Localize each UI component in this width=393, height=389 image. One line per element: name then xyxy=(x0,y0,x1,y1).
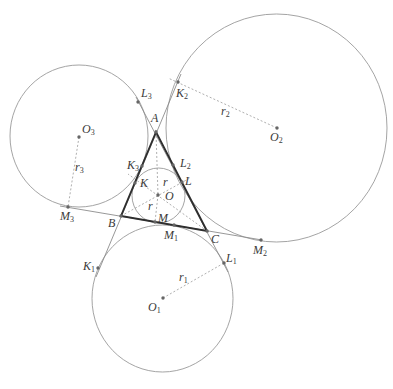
label-M: M xyxy=(157,211,169,225)
label-K: K xyxy=(139,176,149,190)
point-K2 xyxy=(176,80,179,83)
label-B: B xyxy=(108,216,116,230)
point-K xyxy=(133,181,136,184)
point-M1 xyxy=(172,223,175,226)
point-L3 xyxy=(136,100,139,103)
label-O: O xyxy=(165,189,174,203)
point-B xyxy=(119,214,122,217)
point-A xyxy=(154,130,157,133)
point-K3 xyxy=(140,164,143,167)
point-M xyxy=(153,220,156,223)
point-L xyxy=(180,180,183,183)
point-M2 xyxy=(259,238,262,241)
point-O xyxy=(156,193,159,196)
point-K1 xyxy=(96,266,99,269)
label-A: A xyxy=(150,111,159,125)
point-O3 xyxy=(77,135,80,138)
label-r-upper: r xyxy=(163,175,168,189)
geometry-figure: A B C K L M O K1 K2 K3 L1 L2 L3 M1 M2 M3… xyxy=(0,0,393,389)
point-O1 xyxy=(161,296,164,299)
background xyxy=(0,0,393,389)
point-L2 xyxy=(171,163,174,166)
point-C xyxy=(205,229,208,232)
label-C: C xyxy=(211,232,220,246)
label-L: L xyxy=(184,174,192,188)
label-r-lower: r xyxy=(148,199,153,213)
